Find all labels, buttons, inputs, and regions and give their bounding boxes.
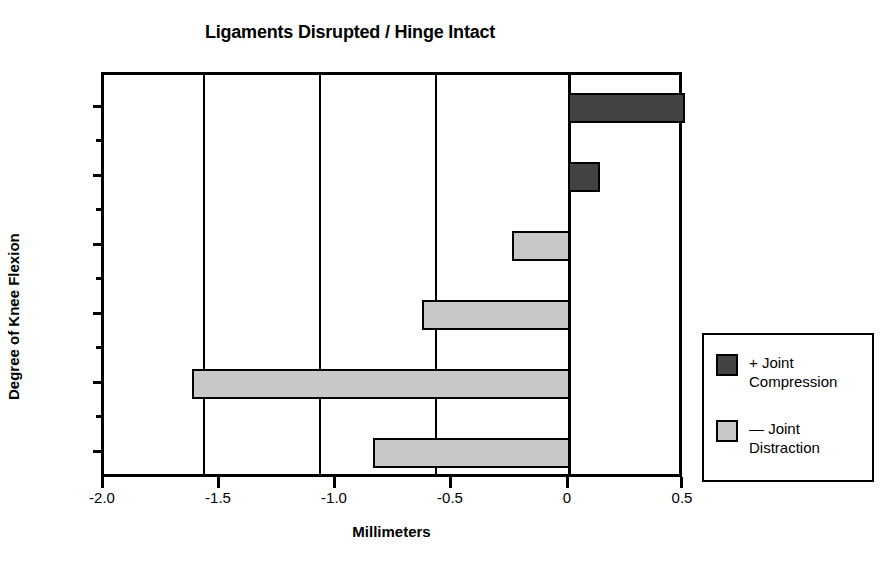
x-tick--1.5 bbox=[217, 477, 220, 488]
y-tick-10 bbox=[96, 415, 104, 418]
chart-title: Ligaments Disrupted / Hinge Intact bbox=[0, 22, 700, 43]
x-tick-label--1.5: -1.5 bbox=[183, 489, 253, 506]
bar-flexion-0 bbox=[373, 438, 570, 468]
legend-swatch-icon-compression bbox=[716, 354, 738, 376]
legend-label-distraction: — Joint Distraction bbox=[749, 419, 820, 457]
x-tick--0.5 bbox=[449, 477, 452, 488]
bar-flexion-100 bbox=[568, 93, 685, 123]
gridline-x--1.5 bbox=[203, 75, 205, 474]
legend-item-joint-compression: + Joint Compression bbox=[716, 353, 837, 391]
y-tick-90 bbox=[96, 139, 104, 142]
gridline-x--0.5 bbox=[435, 75, 437, 474]
y-tick-40 bbox=[93, 312, 104, 315]
bar-flexion-20 bbox=[192, 369, 570, 399]
y-axis-title: Degree of Knee Flexion bbox=[5, 233, 22, 400]
legend-item-joint-distraction: — Joint Distraction bbox=[716, 419, 820, 457]
gridline-x-0 bbox=[568, 75, 571, 474]
bar-flexion-40 bbox=[422, 300, 570, 330]
x-tick-label--0.5: -0.5 bbox=[415, 489, 485, 506]
y-tick-50 bbox=[96, 277, 104, 280]
x-tick--2.0 bbox=[101, 477, 104, 488]
x-tick-label--1.0: -1.0 bbox=[299, 489, 369, 506]
bar-flexion-80 bbox=[568, 162, 600, 192]
y-tick-80 bbox=[93, 174, 104, 177]
bar-flexion-60 bbox=[512, 231, 570, 261]
plot-area bbox=[101, 72, 682, 477]
gridline-x--1.0 bbox=[319, 75, 321, 474]
x-tick-label-0: 0 bbox=[532, 489, 602, 506]
legend-swatch-icon-distraction bbox=[716, 420, 738, 442]
x-axis-title: Millimeters bbox=[101, 523, 682, 540]
y-tick-0 bbox=[93, 450, 104, 453]
y-tick-100 bbox=[93, 105, 104, 108]
y-tick-30 bbox=[96, 346, 104, 349]
y-tick-20 bbox=[93, 381, 104, 384]
x-tick-0 bbox=[566, 477, 569, 488]
legend: + Joint Compression — Joint Distraction bbox=[702, 333, 874, 482]
x-tick-label--2.0: -2.0 bbox=[67, 489, 137, 506]
y-tick-60 bbox=[93, 243, 104, 246]
legend-label-compression: + Joint Compression bbox=[749, 353, 837, 391]
bar-chart: Ligaments Disrupted / Hinge Intact 100 8… bbox=[0, 0, 887, 572]
x-tick--1.0 bbox=[333, 477, 336, 488]
x-tick-label-0.5: 0.5 bbox=[647, 489, 717, 506]
y-axis-title-wrapper: Degree of Knee Flexion bbox=[22, 120, 44, 400]
y-tick-70 bbox=[96, 208, 104, 211]
x-tick-0.5 bbox=[680, 477, 683, 488]
